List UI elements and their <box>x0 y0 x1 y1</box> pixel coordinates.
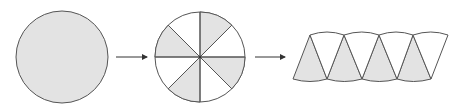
rearranged-strip <box>293 32 448 82</box>
cut-circle <box>155 12 245 102</box>
circle-area-diagram <box>0 0 465 109</box>
whole-circle <box>16 11 108 103</box>
